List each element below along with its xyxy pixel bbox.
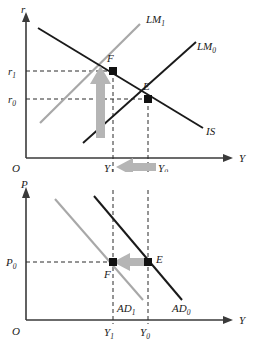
Y-axis-label-top: Y	[239, 152, 247, 164]
r0-tick-label: r0	[8, 93, 16, 108]
lm1-label: LM1	[145, 13, 165, 28]
point-F-marker-bottom	[109, 258, 117, 266]
point-E-marker-top	[144, 95, 152, 103]
r-axis-label: r	[21, 3, 26, 15]
point-E-label-top: E	[142, 80, 150, 92]
ad0-curve	[94, 196, 182, 300]
point-E-marker-bottom	[144, 258, 152, 266]
point-F-label-top: F	[106, 52, 114, 64]
Y0-tick-label-top: Y0	[158, 162, 168, 172]
output-left-arrow-head	[116, 158, 133, 172]
origin-label-top: O	[12, 162, 20, 172]
Y-axis-label-bottom: Y	[239, 314, 247, 326]
Y1-tick-label-bottom: Y1	[104, 326, 114, 341]
ad-panel: P Y O P0 Y1 Y0 AD1 AD0 F E	[0, 172, 266, 350]
Y1-tick-label-top: Y1	[104, 162, 114, 172]
ad-x-axis-arrowhead	[223, 316, 233, 324]
shift-up-arrow-head	[90, 66, 111, 84]
islm-panel: r Y O r1 r0 Y1 Y0 LM1 LM0 IS F E	[0, 0, 266, 172]
P-axis-label: P	[20, 178, 28, 190]
islm-guides	[26, 71, 148, 172]
lm0-label: LM0	[196, 40, 216, 55]
point-F-label-bottom: F	[103, 268, 111, 280]
output-left-arrow	[116, 158, 156, 172]
islm-axes	[22, 12, 233, 162]
origin-label-bottom: O	[12, 325, 20, 337]
is-label: IS	[205, 125, 216, 137]
shift-up-arrow-shaft	[96, 80, 105, 138]
islm-x-axis-arrowhead	[223, 154, 233, 162]
point-E-label-bottom: E	[155, 253, 163, 265]
Y0-tick-label-bottom: Y0	[140, 326, 150, 341]
P0-tick-label: P0	[5, 256, 17, 271]
r1-tick-label: r1	[8, 65, 16, 80]
point-F-marker-top	[109, 67, 117, 75]
economics-figure: r Y O r1 r0 Y1 Y0 LM1 LM0 IS F E	[0, 0, 266, 350]
ad1-label: AD1	[116, 302, 135, 317]
shift-up-arrow	[90, 66, 111, 138]
ad1-curve	[55, 199, 143, 300]
ad0-label: AD0	[171, 302, 191, 317]
